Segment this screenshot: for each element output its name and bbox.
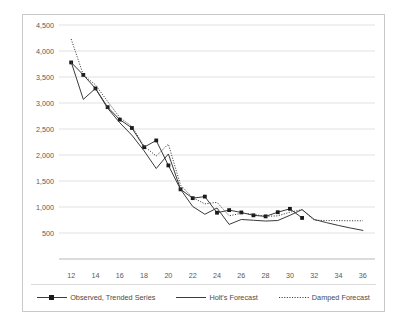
x-axis-tick-labels: 12141618202224262830323436 — [67, 271, 367, 280]
y-tick-label: 3,500 — [36, 73, 54, 82]
y-tick-label: 4,000 — [36, 47, 54, 56]
y-tick-label: 2,500 — [36, 125, 54, 134]
legend-swatch-line-square-marker — [37, 293, 67, 302]
x-tick-label: 12 — [67, 271, 75, 280]
y-tick-label: 1,500 — [36, 177, 54, 186]
x-tick-label: 34 — [335, 271, 343, 280]
data-point-marker — [227, 208, 231, 212]
series-line-1 — [71, 62, 363, 230]
legend-item-damped-forecast[interactable]: Damped Forecast — [279, 293, 370, 302]
x-tick-label: 18 — [140, 271, 148, 280]
x-tick-label: 14 — [91, 271, 99, 280]
y-axis-tick-labels: 5001,0001,5002,0002,5003,0003,5004,0004,… — [36, 21, 54, 238]
y-tick-label: 1,000 — [36, 203, 54, 212]
legend-swatch-line-solid — [176, 293, 206, 302]
legend-label: Holt's Forecast — [209, 293, 257, 302]
x-tick-label: 24 — [213, 271, 221, 280]
x-tick-label: 32 — [310, 271, 318, 280]
data-point-marker — [215, 211, 219, 215]
y-tick-label: 4,500 — [36, 21, 54, 30]
legend-item-holts-forecast[interactable]: Holt's Forecast — [176, 293, 257, 302]
line-chart-plot: 5001,0001,5002,0002,5003,0003,5004,0004,… — [23, 15, 384, 311]
series-line-0 — [71, 62, 302, 217]
x-tick-label: 36 — [359, 271, 367, 280]
x-tick-label: 26 — [237, 271, 245, 280]
x-tick-label: 20 — [164, 271, 172, 280]
x-tick-label: 22 — [189, 271, 197, 280]
series-line-2 — [71, 39, 363, 221]
data-series-group — [69, 39, 363, 230]
y-tick-label: 500 — [42, 229, 54, 238]
chart-legend: Observed, Trended Series Holt's Forecast… — [23, 293, 384, 302]
x-tick-label: 30 — [286, 271, 294, 280]
data-point-marker — [203, 195, 207, 199]
legend-swatch-line-dotted — [279, 293, 309, 302]
x-tick-label: 16 — [116, 271, 124, 280]
data-point-marker — [154, 139, 158, 143]
gridlines-group — [59, 25, 375, 259]
legend-divider — [31, 284, 376, 285]
x-tick-label: 28 — [262, 271, 270, 280]
data-point-marker — [288, 207, 292, 211]
y-tick-label: 2,000 — [36, 151, 54, 160]
legend-label: Observed, Trended Series — [70, 293, 155, 302]
legend-item-observed-trended-series[interactable]: Observed, Trended Series — [37, 293, 155, 302]
y-tick-label: 3,000 — [36, 99, 54, 108]
legend-label: Damped Forecast — [312, 293, 370, 302]
chart-container: 5001,0001,5002,0002,5003,0003,5004,0004,… — [22, 14, 385, 312]
data-point-marker — [166, 164, 170, 168]
data-point-marker — [300, 216, 304, 220]
data-point-marker — [276, 210, 280, 214]
